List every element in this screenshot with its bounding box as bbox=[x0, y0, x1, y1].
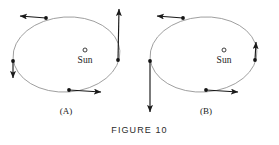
panel-label-b: (B) bbox=[200, 106, 212, 116]
orbit-point-b-left bbox=[148, 59, 152, 63]
figure-caption: FIGURE 10 bbox=[0, 125, 279, 135]
sun-label-b: Sun bbox=[217, 55, 232, 65]
orbit-point-a-right bbox=[116, 58, 120, 62]
velocity-vector-b-right bbox=[255, 42, 256, 60]
orbit-point-a-top bbox=[44, 16, 48, 20]
orbit-point-b-right bbox=[253, 58, 257, 62]
orbit-ellipse-a bbox=[11, 13, 123, 95]
panel-a: Sun (A) bbox=[11, 9, 123, 116]
panel-label-a: (A) bbox=[60, 106, 73, 116]
velocity-vector-a-top bbox=[20, 16, 46, 18]
orbit-ellipse-b bbox=[148, 13, 260, 95]
panel-b: Sun (B) bbox=[148, 13, 260, 116]
orbit-point-a-left bbox=[11, 59, 15, 63]
orbit-point-a-bottom bbox=[67, 88, 71, 92]
orbit-point-b-bottom bbox=[204, 88, 208, 92]
sun-marker-a bbox=[83, 48, 87, 52]
velocity-vector-a-right bbox=[118, 9, 119, 60]
velocity-vector-b-top bbox=[157, 16, 183, 18]
orbit-diagram-canvas: Sun (A) Sun (B) bbox=[0, 0, 279, 145]
sun-label-a: Sun bbox=[78, 55, 93, 65]
sun-marker-b bbox=[222, 48, 226, 52]
figure-container: Sun (A) Sun (B) FIGURE 10 bbox=[0, 0, 279, 145]
orbit-point-b-top bbox=[181, 16, 185, 20]
